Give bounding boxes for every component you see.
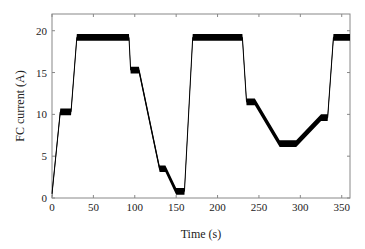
x-tick-label: 150 (168, 201, 185, 213)
y-tick-label: 5 (42, 150, 48, 162)
x-tick-label: 0 (49, 201, 55, 213)
y-tick-label: 0 (42, 192, 48, 204)
x-tick-label: 350 (333, 201, 350, 213)
y-tick-label: 15 (36, 67, 48, 79)
x-axis-label: Time (s) (181, 227, 222, 241)
y-tick-label: 10 (36, 108, 48, 120)
y-axis-label: FC current (A) (13, 70, 27, 141)
x-tick-label: 100 (127, 201, 144, 213)
fc-current-chart: 05010015020025030035005101520 Time (s) F… (0, 0, 365, 249)
plot-frame (52, 14, 350, 198)
series-fc-current (52, 34, 350, 197)
x-tick-label: 250 (251, 201, 268, 213)
x-tick-label: 300 (292, 201, 309, 213)
axis-ticks: 05010015020025030035005101520 (36, 14, 350, 213)
x-tick-label: 200 (209, 201, 226, 213)
y-tick-label: 20 (36, 25, 48, 37)
x-tick-label: 50 (88, 201, 100, 213)
